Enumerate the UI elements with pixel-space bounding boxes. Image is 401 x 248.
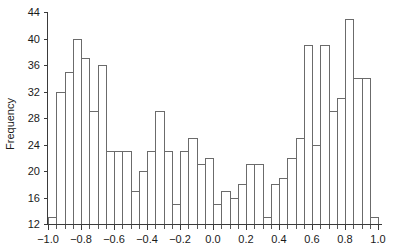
histogram-bar <box>189 139 198 225</box>
histogram-bar <box>99 66 107 225</box>
histogram-chart: 121620242832364044 −1.0−0.8−0.6−0.4−0.20… <box>0 0 401 248</box>
histogram-bar <box>371 218 379 225</box>
histogram-bar <box>346 20 354 225</box>
bars-group <box>49 20 379 225</box>
x-tick-label: 0.8 <box>337 233 352 245</box>
histogram-bar <box>132 192 140 225</box>
y-axis-ticks: 121620242832364044 <box>28 6 48 230</box>
histogram-bar <box>123 152 132 225</box>
x-tick-label: −0.2 <box>169 233 191 245</box>
histogram-bar <box>165 152 173 225</box>
histogram-bar <box>173 205 181 225</box>
histogram-bar <box>90 112 99 225</box>
y-tick-label: 28 <box>28 112 40 124</box>
chart-canvas: 121620242832364044 −1.0−0.8−0.6−0.4−0.20… <box>0 0 401 248</box>
histogram-bar <box>264 218 272 225</box>
histogram-bar <box>214 205 222 225</box>
histogram-bar <box>49 218 57 225</box>
histogram-bar <box>255 165 264 225</box>
histogram-bar <box>313 146 321 225</box>
histogram-bar <box>272 185 280 225</box>
histogram-bar <box>115 152 123 225</box>
x-tick-label: −0.8 <box>70 233 92 245</box>
histogram-bar <box>288 159 297 225</box>
y-tick-label: 44 <box>28 6 40 18</box>
histogram-bar <box>198 165 206 225</box>
x-tick-label: 1.0 <box>370 233 385 245</box>
y-axis-title: Frequency <box>4 98 16 150</box>
histogram-bar <box>107 152 115 225</box>
histogram-bar <box>82 59 90 225</box>
x-tick-label: 0.6 <box>304 233 319 245</box>
histogram-bar <box>140 172 148 225</box>
y-tick-label: 20 <box>28 165 40 177</box>
histogram-bar <box>74 40 82 225</box>
histogram-bar <box>363 79 371 225</box>
histogram-bar <box>354 79 363 225</box>
histogram-bar <box>156 112 165 225</box>
histogram-bar <box>239 185 247 225</box>
y-tick-label: 12 <box>28 218 40 230</box>
y-tick-label: 36 <box>28 59 40 71</box>
histogram-bar <box>330 112 338 225</box>
x-tick-label: 0.4 <box>271 233 286 245</box>
histogram-bar <box>338 99 346 225</box>
histogram-bar <box>231 199 239 225</box>
histogram-bar <box>181 152 189 225</box>
histogram-bar <box>57 93 66 225</box>
y-tick-label: 32 <box>28 86 40 98</box>
histogram-bar <box>222 192 231 225</box>
histogram-bar <box>247 165 255 225</box>
x-tick-label: −0.6 <box>103 233 125 245</box>
x-tick-label: 0.2 <box>238 233 253 245</box>
x-tick-label: −0.4 <box>136 233 158 245</box>
histogram-bar <box>280 179 288 225</box>
histogram-bar <box>305 46 313 225</box>
histogram-bar <box>66 73 74 225</box>
histogram-bar <box>206 159 214 225</box>
y-tick-label: 24 <box>28 139 40 151</box>
x-tick-label: 0.0 <box>205 233 220 245</box>
x-axis-ticks: −1.0−0.8−0.6−0.4−0.20.00.20.40.60.81.0 <box>37 225 386 246</box>
y-tick-label: 16 <box>28 192 40 204</box>
y-tick-label: 40 <box>28 33 40 45</box>
x-tick-label: −1.0 <box>37 233 59 245</box>
histogram-bar <box>321 46 330 225</box>
histogram-bar <box>297 139 305 225</box>
histogram-bar <box>148 152 156 225</box>
